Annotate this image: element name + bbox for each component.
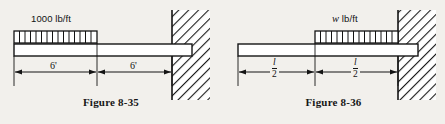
beam-body bbox=[14, 44, 192, 56]
dimension-label-right: l 2 bbox=[351, 58, 360, 79]
dimension-label-right: 6' bbox=[128, 60, 139, 71]
load-magnitude-label: 1000 lb/ft bbox=[31, 13, 71, 24]
beam-body bbox=[238, 44, 418, 56]
load-units: lb/ft bbox=[339, 13, 358, 24]
distributed-load-block bbox=[315, 31, 398, 43]
figure-caption: Figure 8-35 bbox=[0, 96, 222, 108]
diagram-page: 1000 lb/ft 6' 6' Figure 8-35 bbox=[0, 0, 445, 124]
figure-8-36-panel: w lb/ft l 2 l 2 Figure 8-36 bbox=[222, 0, 445, 124]
dimension-label-left: 6' bbox=[48, 60, 59, 71]
fraction-numerator: l bbox=[272, 58, 277, 68]
fraction-denominator: 2 bbox=[272, 70, 277, 80]
figure-8-35-panel: 1000 lb/ft 6' 6' Figure 8-35 bbox=[0, 0, 222, 124]
fraction-numerator: l bbox=[353, 58, 358, 68]
figure-caption: Figure 8-36 bbox=[222, 96, 445, 108]
dimension-label-left: l 2 bbox=[270, 58, 279, 79]
distributed-load-block bbox=[14, 31, 97, 43]
load-magnitude-label: w lb/ft bbox=[332, 13, 358, 24]
fraction-denominator: 2 bbox=[353, 70, 358, 80]
